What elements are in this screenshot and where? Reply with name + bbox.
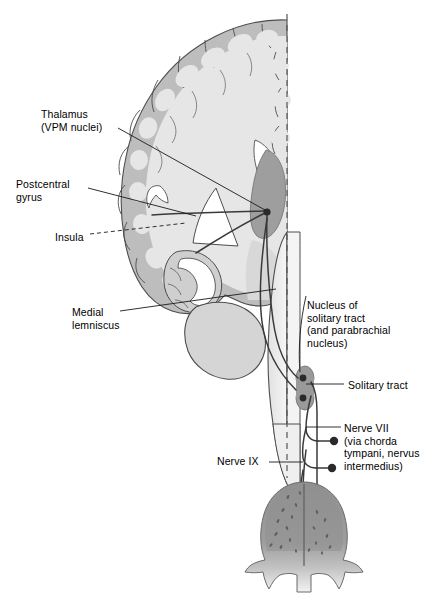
- cell-body-solitary-lower: [300, 395, 307, 402]
- label-nucleus-of-solitary-tract: Nucleus of solitary tract (and parabrach…: [307, 299, 390, 349]
- label-medial-lemniscus: Medial lemniscus: [72, 306, 120, 331]
- label-solitary-tract: Solitary tract: [348, 379, 408, 392]
- label-nerve-ix: Nerve IX: [217, 455, 259, 468]
- cell-body-solitary-upper: [300, 375, 307, 382]
- solitary-nucleus-band: [296, 378, 314, 398]
- ganglion-cell-nerve-vii: [330, 437, 338, 445]
- ganglion-cell-nerve-ix: [328, 464, 336, 472]
- taste-pathway-figure: Thalamus (VPM nuclei) Postcentral gyrus …: [0, 0, 442, 604]
- label-insula: Insula: [55, 231, 84, 244]
- label-nerve-vii: Nerve VII (via chorda tympani, nervus in…: [344, 422, 420, 472]
- solitary-nucleus-group: [296, 366, 314, 410]
- label-postcentral-gyrus: Postcentral gyrus: [16, 178, 70, 203]
- label-thalamus: Thalamus (VPM nuclei): [41, 108, 102, 133]
